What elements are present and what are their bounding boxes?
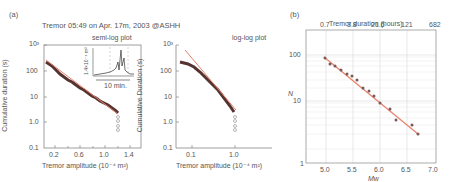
b-ytick-2: 1 [300, 160, 304, 167]
b-xlabel: Mw [368, 175, 379, 182]
loglog-xtick-1: 1.0 [229, 151, 239, 158]
b-xtick-0: 5.0 [320, 166, 330, 173]
loglog-ytick-3: 1.0 [163, 118, 173, 125]
b-xtick-3: 6.5 [401, 166, 411, 173]
inset-timeseries [93, 47, 134, 80]
b-toptick-1: 3.8 [347, 21, 357, 28]
b-xtick-4: 7.0 [428, 166, 438, 173]
figure-canvas [0, 0, 454, 182]
loglog-ytick-4: 0.1 [163, 144, 173, 151]
inset-ylabel: 1.4×10⁻⁴ m² [83, 47, 89, 75]
semilog-xtick-2: 1.0 [99, 151, 109, 158]
b-xtick-1: 5.5 [347, 166, 357, 173]
b-toptick-4: 682 [429, 21, 441, 28]
b-toptick-0: 0.7 [320, 21, 330, 28]
semilog-ytick-2: 10 [30, 93, 38, 100]
b-toptick-2: 21.6 [371, 21, 385, 28]
b-ytick-0: 100 [289, 51, 301, 58]
loglog-plot [176, 45, 272, 148]
loglog-ytick-0: 10³ [163, 40, 173, 47]
semilog-xtick-3: 1.4 [124, 151, 134, 158]
b-ylabel: N [288, 90, 293, 97]
loglog-xtick-0: 0.1 [186, 151, 196, 158]
b-ytick-1: 10 [293, 97, 301, 104]
panel-b-plot [306, 30, 436, 163]
loglog-ylabel: Cumulative Duration (s) [136, 59, 143, 133]
semilog-ytick-4: 0.1 [29, 144, 39, 151]
semilog-xtick-0: 0.2 [49, 151, 59, 158]
b-xtick-2: 6.0 [374, 166, 384, 173]
inset-xlabel: 10 min. [104, 82, 127, 89]
loglog-ytick-2: 10 [164, 93, 172, 100]
semilog-xtick-1: 0.6 [74, 151, 84, 158]
semilog-ylabel: Cumulative duration (s) [1, 59, 8, 131]
semilog-plot [44, 45, 141, 148]
semilog-ytick-0: 10³ [29, 40, 39, 47]
loglog-ytick-1: 100 [160, 67, 172, 74]
semilog-xlabel: Tremor amplitude (10⁻⁴ m²) [42, 162, 128, 170]
loglog-xlabel: Tremor amplitude (10⁻⁴ m²) [176, 162, 262, 170]
semilog-ytick-1: 100 [26, 67, 38, 74]
semilog-ytick-3: 1.0 [29, 118, 39, 125]
b-toptick-3: 121 [401, 21, 413, 28]
